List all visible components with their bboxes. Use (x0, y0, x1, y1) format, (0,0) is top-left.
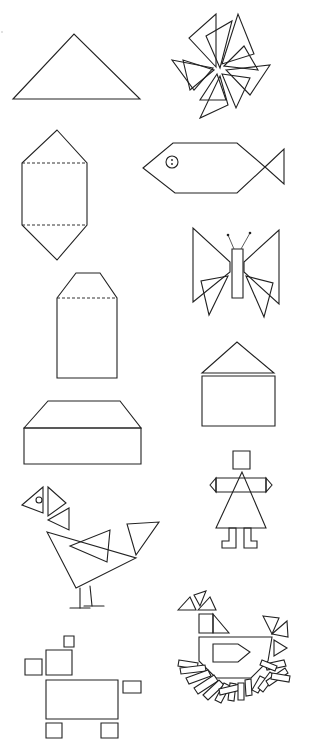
drawing-canvas (0, 0, 309, 752)
tall-pentagon-box-figure (57, 273, 117, 378)
antenna-tip (249, 232, 252, 235)
butterfly-shape (244, 230, 279, 304)
hen-on-nest-shape (199, 637, 272, 678)
pinwheel-shape (222, 14, 254, 64)
dog-shape (46, 650, 72, 675)
butterfly-shape (193, 228, 230, 302)
dog-shape (64, 636, 74, 647)
hen-on-nest-shape (263, 616, 279, 634)
person-figure (210, 451, 272, 548)
person-shape (210, 478, 216, 492)
butterfly-shape (246, 276, 273, 317)
rooster-shape (47, 532, 136, 588)
eye-dot (171, 163, 173, 165)
rooster-figure (22, 487, 159, 608)
house-shape (202, 376, 275, 426)
eye (166, 156, 178, 168)
triangle-figure (13, 34, 140, 99)
hen-on-nest-shape (274, 640, 287, 656)
person-shape (216, 472, 266, 528)
nest-stick (245, 679, 252, 696)
triangle-shape (13, 34, 140, 99)
fish-shape (265, 149, 284, 184)
eye-dot (171, 159, 173, 161)
rooster-shape (127, 522, 159, 555)
fish-figure (143, 143, 284, 193)
hen-on-nest-shape (199, 614, 213, 633)
hexagon-prism-shape (22, 130, 87, 260)
geometric-figures-illustration (0, 0, 309, 752)
dog-shape (101, 723, 118, 738)
rooster-shape (22, 487, 43, 513)
person-shape (244, 528, 257, 548)
dog-shape (46, 723, 62, 738)
antenna (228, 235, 234, 249)
leg-line (90, 586, 92, 606)
antenna (241, 233, 250, 249)
flat-box-figure (24, 401, 141, 464)
person-shape (266, 478, 272, 492)
eye (36, 497, 42, 503)
hen-on-nest-figure (178, 591, 290, 703)
tall-pentagon-box-shape (57, 273, 117, 378)
hen-on-nest-shape (178, 597, 196, 610)
person-shape (216, 478, 266, 492)
pinwheel-shape (200, 76, 228, 118)
pinwheel-figure (172, 14, 270, 118)
butterfly-shape (232, 249, 243, 298)
dog-shape (25, 659, 42, 675)
house-shape (202, 342, 274, 373)
stray-mark (1, 31, 3, 33)
hen-on-nest-shape (213, 614, 229, 633)
butterfly-figure (193, 228, 279, 317)
rooster-shape (70, 530, 110, 562)
antenna-tip (227, 234, 230, 237)
dog-figure (25, 636, 141, 738)
pinwheel-shape (172, 60, 213, 90)
dog-shape (123, 681, 141, 693)
butterfly-shape (201, 276, 228, 315)
nest-stick (238, 683, 244, 700)
person-shape (222, 528, 236, 548)
pinwheel-shape (226, 65, 270, 95)
person-shape (233, 451, 250, 469)
flat-box-shape (24, 428, 141, 464)
pinwheel-shape (189, 14, 216, 67)
rooster-shape (48, 508, 69, 530)
flat-box-shape (24, 401, 141, 428)
house-figure (202, 342, 275, 426)
hexagon-prism-figure (22, 130, 87, 260)
hen-on-nest-shape (213, 644, 250, 662)
dog-shape (46, 680, 118, 719)
fish-shape (143, 143, 265, 193)
